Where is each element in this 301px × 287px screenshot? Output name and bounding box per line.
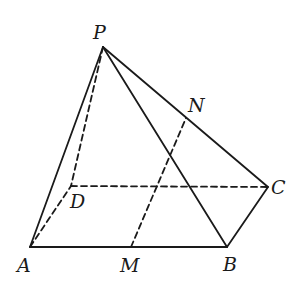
vertex-label-A: A — [15, 254, 31, 276]
diagram-svg: P A B C D M N — [0, 0, 301, 287]
edge-BC — [227, 187, 268, 247]
edge-PA — [30, 47, 103, 247]
vertex-label-D: D — [69, 190, 85, 212]
pyramid-diagram: P A B C D M N — [0, 0, 301, 287]
edge-PB — [103, 47, 227, 247]
vertex-label-C: C — [271, 176, 286, 198]
labels-group: P A B C D M N — [15, 21, 286, 276]
point-label-M: M — [119, 254, 140, 276]
edge-DC — [71, 186, 268, 187]
point-label-N: N — [187, 94, 206, 116]
edge-PD — [71, 47, 103, 186]
edge-PC — [103, 47, 268, 187]
edge-AD — [30, 186, 71, 247]
edges-group — [30, 47, 268, 247]
vertex-label-P: P — [92, 21, 107, 43]
vertex-label-B: B — [222, 253, 237, 275]
